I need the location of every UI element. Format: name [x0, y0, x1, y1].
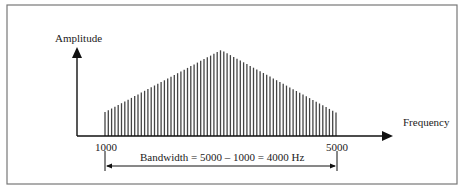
x-axis-arrow-icon [382, 131, 393, 141]
spectrum-bars [105, 50, 336, 136]
left-arrow-icon [106, 164, 112, 169]
bandwidth-label: Bandwidth = 5000 – 1000 = 4000 Hz [140, 151, 304, 163]
bandwidth-diagram: Amplitude Frequency 1000 5000 Bandwidth … [0, 0, 464, 189]
right-arrow-icon [330, 164, 336, 169]
x-axis-label: Frequency [403, 116, 450, 128]
low-frequency-label: 1000 [95, 141, 118, 153]
y-axis-arrow-icon [72, 47, 82, 58]
y-axis-label: Amplitude [55, 32, 102, 44]
